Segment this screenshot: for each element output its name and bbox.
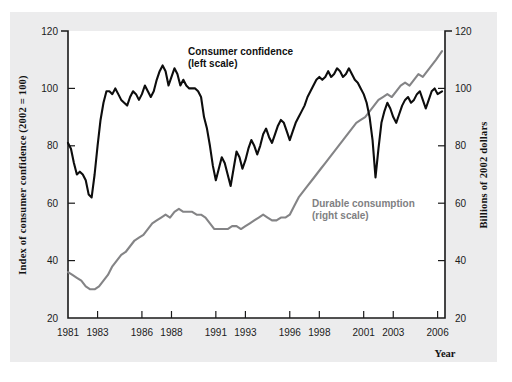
right-axis-tick-labels: 20406080100120 [455, 26, 472, 324]
plot-area-container: 20406080100120 20406080100120 1981198319… [0, 0, 512, 382]
x-tick-label: 1996 [279, 327, 302, 338]
left-tick-label: 80 [47, 140, 59, 151]
chart-figure: 20406080100120 20406080100120 1981198319… [0, 0, 512, 382]
annotation-consumer-confidence-line2: (left scale) [188, 58, 237, 69]
annotation-consumer-confidence-line1: Consumer confidence [188, 46, 293, 57]
chart-svg: 20406080100120 20406080100120 1981198319… [0, 0, 512, 382]
left-tick-label: 120 [41, 26, 58, 37]
x-tick-label: 1998 [308, 327, 331, 338]
right-tick-label: 60 [455, 198, 467, 209]
right-axis-title: Billions of 2002 dollars [478, 121, 489, 228]
x-tick-label: 1993 [234, 327, 257, 338]
right-tick-label: 100 [455, 83, 472, 94]
x-tick-label: 1991 [205, 327, 228, 338]
annotation-durable-consumption-line1: Durable consumption [312, 198, 415, 209]
left-tick-label: 60 [47, 198, 59, 209]
x-tick-label: 1988 [160, 327, 183, 338]
right-tick-label: 40 [455, 255, 467, 266]
x-tick-label: 2003 [382, 327, 405, 338]
right-tick-label: 120 [455, 26, 472, 37]
left-tick-label: 20 [47, 313, 59, 324]
left-axis-title: Index of consumer confidence (2002 = 100… [17, 75, 29, 275]
x-tick-label: 2001 [353, 327, 376, 338]
x-axis-title: Year [435, 348, 456, 359]
annotation-durable-consumption-line2: (right scale) [312, 210, 369, 221]
bottom-axis-tick-labels: 1981198319861988199119931996199820012003… [57, 327, 449, 338]
x-tick-label: 2006 [426, 327, 449, 338]
x-tick-label: 1983 [86, 327, 109, 338]
plot-background [68, 31, 445, 318]
right-tick-label: 20 [455, 313, 467, 324]
left-axis-tick-labels: 20406080100120 [41, 26, 58, 324]
x-tick-label: 1986 [131, 327, 154, 338]
right-tick-label: 80 [455, 140, 467, 151]
left-tick-label: 40 [47, 255, 59, 266]
left-tick-label: 100 [41, 83, 58, 94]
x-tick-label: 1981 [57, 327, 80, 338]
